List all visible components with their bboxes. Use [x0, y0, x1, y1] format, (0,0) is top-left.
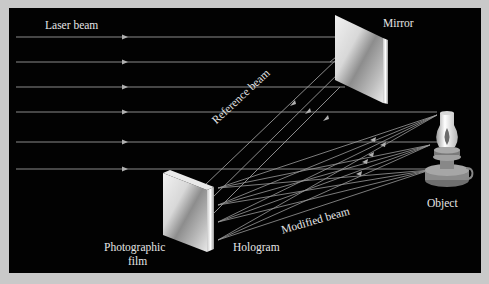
label-object: Object [427, 198, 458, 210]
photographic-film-icon [163, 170, 214, 252]
label-hologram: Hologram [233, 242, 280, 254]
mirror-icon [335, 15, 388, 104]
label-photographic-film-line2: film [128, 256, 147, 268]
lamp-object-icon [425, 111, 472, 187]
label-mirror: Mirror [383, 18, 414, 30]
laser-arrow-icons [122, 35, 128, 172]
label-photographic-film-line1: Photographic [104, 242, 165, 254]
label-laser-beam: Laser beam [45, 20, 98, 32]
